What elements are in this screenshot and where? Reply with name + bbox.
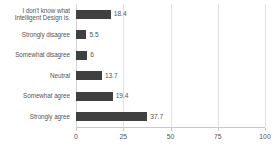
tick-label-50: 50 <box>167 132 175 142</box>
category-label-line: I don't know what <box>0 7 70 15</box>
bar-value-label-5: 37.7 <box>150 112 163 121</box>
x-axis-tick-labels: 0255075100 <box>76 132 265 144</box>
bar-value-label-3: 13.7 <box>105 71 118 80</box>
category-label-line: Strongly disagree <box>0 31 70 39</box>
bar-row: 37.7 <box>76 112 275 121</box>
category-label-line: Somewhat agree <box>0 92 70 100</box>
bar-series: 18.45.5613.719.437.7 <box>76 4 265 127</box>
horizontal-bar-chart: I don't know whatIntelligent Design is.S… <box>0 0 275 147</box>
bar-value-label-0: 18.4 <box>114 9 127 18</box>
category-label-3: Neutral <box>0 72 70 80</box>
bar-row: 5.5 <box>76 30 275 39</box>
bar-5 <box>76 112 147 121</box>
category-axis-labels: I don't know whatIntelligent Design is.S… <box>0 4 73 127</box>
category-label-line: Strongly agree <box>0 113 70 121</box>
tick-label-25: 25 <box>119 132 127 142</box>
tick-label-75: 75 <box>214 132 222 142</box>
bar-4 <box>76 92 113 101</box>
bar-1 <box>76 30 86 39</box>
bar-row: 13.7 <box>76 71 275 80</box>
category-label-line: Intelligent Design is. <box>0 14 70 22</box>
bar-row: 18.4 <box>76 10 275 19</box>
tick-label-0: 0 <box>74 132 78 142</box>
category-label-line: Somewhat disagree <box>0 51 70 59</box>
bar-row: 6 <box>76 51 275 60</box>
gridline-100 <box>265 4 266 127</box>
category-label-0: I don't know whatIntelligent Design is. <box>0 7 70 22</box>
bar-3 <box>76 71 102 80</box>
category-label-line: Neutral <box>0 72 70 80</box>
tick-100 <box>265 128 266 131</box>
category-label-1: Strongly disagree <box>0 31 70 39</box>
bar-value-label-2: 6 <box>90 50 94 59</box>
bar-2 <box>76 51 87 60</box>
tick-label-100: 100 <box>259 132 270 142</box>
tick-75 <box>218 128 219 131</box>
tick-0 <box>76 128 77 131</box>
category-label-2: Somewhat disagree <box>0 51 70 59</box>
plot-area: 18.45.5613.719.437.7 <box>76 4 265 127</box>
tick-25 <box>123 128 124 131</box>
x-axis-ticks <box>76 128 265 131</box>
tick-50 <box>171 128 172 131</box>
category-label-5: Strongly agree <box>0 113 70 121</box>
bar-value-label-1: 5.5 <box>89 30 98 39</box>
category-label-4: Somewhat agree <box>0 92 70 100</box>
bar-row: 19.4 <box>76 92 275 101</box>
bar-value-label-4: 19.4 <box>116 91 129 100</box>
bar-0 <box>76 10 111 19</box>
